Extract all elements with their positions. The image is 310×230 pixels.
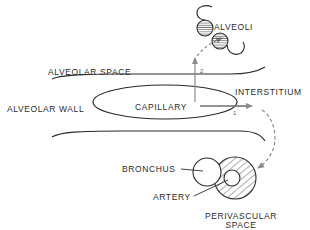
pathway-number-1: 1 [233,110,236,116]
bronchus-circle [193,158,221,186]
label-bronchus: BRONCHUS [122,165,175,174]
pathway-number-2: 2 [200,68,203,74]
label-alveoli: ALVEOLI [214,23,253,32]
lung-fluid-pathway-diagram: ALVEOLI ALVEOLAR SPACE ALVEOLAR WALL CAP… [0,0,310,230]
label-perivascular-space-2: SPACE [204,221,278,230]
label-capillary: CAPILLARY [135,103,187,112]
label-alveolar-wall: ALVEOLAR WALL [7,105,84,114]
label-interstitium: INTERSTITIUM [235,88,302,97]
label-alveolar-space: ALVEOLAR SPACE [48,68,131,77]
artery-circle [224,170,240,186]
lower-wall-line [52,131,265,141]
pathway-1-dashed [258,110,275,168]
label-artery: ARTERY [153,193,191,202]
